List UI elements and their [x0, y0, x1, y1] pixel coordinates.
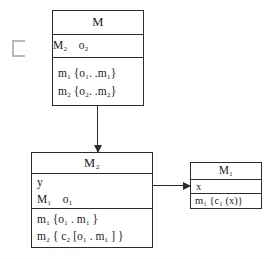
class-box-m-attribute: M₂ o₂ — [53, 38, 143, 53]
class-box-m2-title-compartment: M₂ — [32, 153, 152, 173]
class-box-m2[interactable]: M₂ y M₁ o₁ m₁ {o₁ . m₁ } m₂ { c₂ [o₁ . m… — [31, 152, 153, 248]
class-box-m1-attributes-compartment: x — [191, 179, 261, 193]
class-box-m-title: M — [53, 14, 143, 31]
class-box-m1-operation: m₁ {c₁ (x)} — [195, 194, 243, 208]
class-box-m[interactable]: M M₂ o₂ m₁ {o₁. .m₁} m₂ {o₂. .m₂} — [52, 10, 144, 106]
class-box-m-attributes-compartment: M₂ o₂ — [53, 34, 143, 57]
subset-symbol — [12, 40, 25, 57]
class-box-m-operations-compartment: m₁ {o₁. .m₁} m₂ {o₂. .m₂} — [53, 57, 143, 105]
class-box-m2-attribute: y — [37, 175, 43, 190]
class-box-m1-title-compartment: M₁ — [191, 163, 261, 179]
class-box-m-title-compartment: M — [53, 11, 143, 34]
class-box-m2-operation: m₂ { c₂ [o₁ . m₁ ] } — [37, 229, 123, 244]
class-box-m2-attributes-compartment: y M₁ o₁ — [32, 173, 152, 208]
class-box-m1-operations-compartment: m₁ {c₁ (x)} — [191, 193, 261, 208]
class-box-m2-attribute: M₁ o₁ — [37, 192, 73, 207]
class-box-m-operation: m₂ {o₂. .m₂} — [58, 84, 116, 99]
class-box-m-operation: m₁ {o₁. .m₁} — [58, 66, 116, 81]
arrow-m2-to-m1 — [153, 185, 190, 186]
class-box-m2-operation: m₁ {o₁ . m₁ } — [37, 212, 98, 227]
class-box-m1[interactable]: M₁ x m₁ {c₁ (x)} — [190, 162, 262, 209]
class-box-m2-operations-compartment: m₁ {o₁ . m₁ } m₂ { c₂ [o₁ . m₁ ] } — [32, 208, 152, 247]
class-box-m1-title: M₁ — [191, 163, 261, 178]
arrow-m-to-m2 — [97, 106, 98, 152]
class-box-m2-title: M₂ — [32, 155, 152, 172]
class-box-m1-attribute: x — [196, 180, 201, 194]
